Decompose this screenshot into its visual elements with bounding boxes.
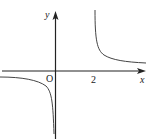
curve-right-branch [95,10,146,63]
x-axis-label: x [140,75,144,85]
x-tick-label-2: 2 [91,75,96,85]
y-axis-label: y [45,10,49,20]
curve-left-branch [0,77,54,134]
origin-label: O [46,74,53,84]
graph [0,0,147,139]
